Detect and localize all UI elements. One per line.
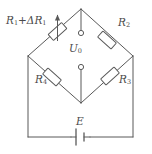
label-u0-output-voltage: U0 (69, 43, 82, 55)
label-r4-subscript: 4 (43, 78, 47, 86)
label-r1-operator: + (18, 14, 27, 26)
circuit-diagram: R1+ΔR1 R2 R3 R4 U0 E (0, 0, 152, 154)
resistor-r2-body (98, 31, 117, 49)
label-r3: R3 (119, 74, 131, 86)
label-r1-base: R1 (6, 14, 18, 26)
label-delta-r1-subscript: 1 (42, 19, 46, 27)
label-delta-r1: ΔR1 (27, 14, 47, 26)
label-r2: R2 (118, 17, 130, 29)
resistor-r3[interactable] (101, 67, 120, 85)
label-u0-subscript: 0 (78, 47, 82, 55)
output-terminal-top[interactable] (78, 30, 83, 35)
label-r1-plus-delta-r1: R1+ΔR1 (6, 15, 47, 27)
label-r2-subscript: 2 (126, 21, 130, 29)
resistor-r2[interactable] (98, 31, 117, 49)
label-r3-subscript: 3 (127, 78, 131, 86)
label-r4: R4 (35, 74, 47, 86)
resistor-r3-body (101, 67, 120, 85)
output-terminal-bottom[interactable] (78, 64, 83, 69)
battery-symbol[interactable] (71, 129, 90, 145)
label-e-source: E (76, 116, 84, 127)
